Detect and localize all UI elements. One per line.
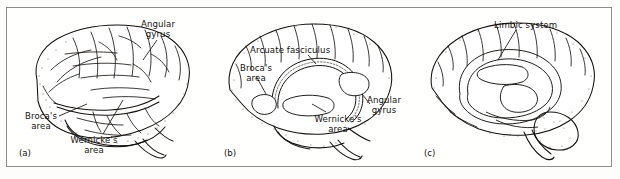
label-brocas-area-b: Broca's area [232,64,280,83]
panel-tag-b: (b) [224,148,236,158]
angular-gyrus-outline [339,72,369,95]
label-angular-gyrus-b: Angular gyrus [360,96,408,115]
wernickes-area-outline [283,95,334,116]
label-wernickes-area-b: Wernicke's area [307,115,369,134]
panel-a-lateral-view: Angular gyrus Broca's area Wernicke's ar… [7,8,212,168]
label-angular-gyrus-a: Angular gyrus [127,20,189,39]
label-brocas-area-a: Broca's area [15,112,67,131]
panel-b-arcuate-fasciculus: Arcuate fasciculus Broca's area Wernicke… [212,8,412,168]
thalamus-outline [500,84,537,112]
corpus-callosum-outline [477,65,528,85]
label-wernickes-area-a: Wernicke's area [63,136,125,155]
panel-tag-c: (c) [424,148,435,158]
brocas-area-outline [252,95,277,115]
figure-frame: Angular gyrus Broca's area Wernicke's ar… [6,7,612,167]
arcuate-fasciculus-drawing [212,8,412,168]
medial-brain-drawing [412,8,613,168]
panel-tag-a: (a) [19,148,31,158]
panel-c-limbic-system: Limbic system (c) [412,8,613,168]
label-limbic-system: Limbic system [494,21,574,31]
brain-language-areas-figure: Angular gyrus Broca's area Wernicke's ar… [0,0,620,179]
label-arcuate-fasciculus: Arcuate fasciculus [250,46,360,56]
